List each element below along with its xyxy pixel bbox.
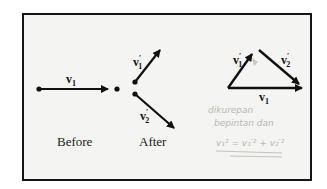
pencil-underline [216,151,282,153]
label-before: Before [57,134,93,149]
pencil-underline-2 [230,156,282,157]
label-v2prime-triangle: v′2 [281,52,290,69]
label-v1prime-after: v′1 [133,54,142,71]
label-v2prime-after: v′2 [140,108,149,125]
target-particle [114,86,119,91]
label-after: After [139,134,167,149]
handwritten-equation: v₁² = v₁′² + v₂′² [216,138,285,148]
label-v1prime-triangle: v′1 [233,52,242,69]
handwritten-note-2: bepintan dan [214,118,274,128]
right-angle-mark [252,58,258,66]
label-v1-triangle: v1 [259,90,269,106]
label-v1-before: v1 [66,72,76,88]
after-v2prime-arrow [132,91,174,128]
collision-diagram: v1 v′1 v′2 Before After v′1 v′2 v1 dikur… [0,0,327,189]
handwritten-note-1: dikurepan [208,105,254,115]
